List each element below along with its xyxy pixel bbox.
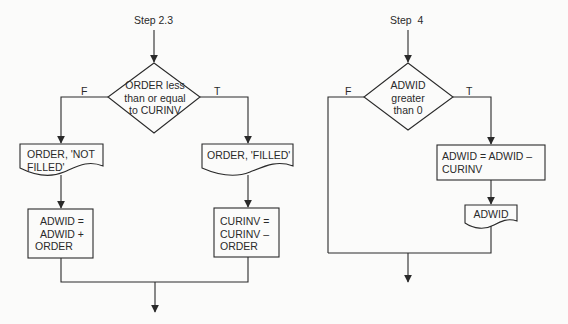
decision-text-right: ADWID greater than 0	[376, 79, 440, 117]
process-text-adwid-minus: ADWID = ADWID – CURINV	[442, 150, 532, 175]
true-branch-left	[200, 97, 248, 143]
process-text-curinv: CURINV = CURINV – ORDER	[220, 215, 269, 253]
false-label-right: F	[345, 85, 351, 97]
step-label-right: Step 4	[390, 14, 423, 26]
false-label-left: F	[81, 85, 87, 97]
join-line-left	[61, 257, 248, 282]
false-branch-left	[61, 97, 108, 143]
true-label-left: T	[214, 85, 220, 97]
true-branch-right	[453, 97, 491, 144]
output-text-adwid: ADWID	[465, 208, 517, 221]
join-line-right	[328, 226, 491, 253]
process-text-adwid: ADWID = ADWID + ORDER	[36, 215, 84, 253]
true-label-right: T	[466, 85, 472, 97]
false-branch-right	[328, 97, 364, 253]
flowchart-canvas: Step 2.3 ORDER less than or equal to CUR…	[0, 0, 568, 324]
output-text-filled: ORDER, 'FILLED'	[207, 149, 290, 162]
decision-text-left: ORDER less than or equal to CURINV	[118, 79, 192, 117]
output-text-not-filled: ORDER, 'NOT FILLED'	[27, 148, 95, 173]
step-label-left: Step 2.3	[134, 14, 173, 26]
